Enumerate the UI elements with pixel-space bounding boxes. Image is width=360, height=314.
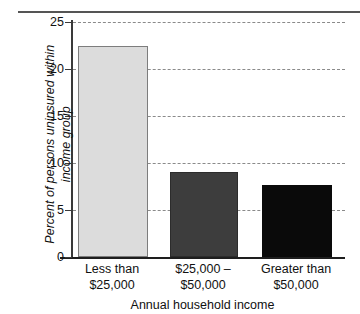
x-axis-title: Annual household income: [60, 298, 345, 312]
y-tick-mark-0: [65, 257, 72, 258]
x-tick-label-0: Less than $25,000: [62, 262, 162, 293]
bar-less-than-25000: [78, 46, 148, 257]
plot-area: 25 20 15 10 5 0 Less than $25,000 $25,00…: [0, 0, 360, 314]
bar-chart-figure: 25 20 15 10 5 0 Less than $25,000 $25,00…: [0, 0, 360, 314]
bar-25000-to-50000: [170, 172, 238, 257]
y-tick-mark-25: [65, 22, 72, 23]
y-axis-title: Percent of persons uninsured within inco…: [42, 34, 75, 254]
x-tick-label-2: Greater than $50,000: [244, 262, 348, 293]
bar-greater-than-50000: [262, 185, 332, 257]
gridline-25: [73, 22, 345, 23]
x-axis-line: [60, 257, 345, 259]
y-tick-label-25: 25: [50, 16, 64, 29]
x-tick-label-1: $25,000 – $50,000: [153, 262, 253, 293]
